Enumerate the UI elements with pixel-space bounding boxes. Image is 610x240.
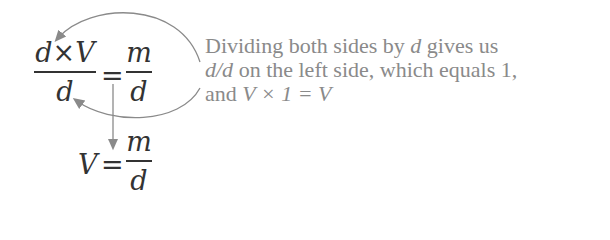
result-variable-v: V bbox=[78, 149, 98, 180]
fraction-bar bbox=[34, 71, 96, 73]
annotation-line-2: d/d on the left side, which equals 1, bbox=[205, 58, 517, 82]
numerator: m bbox=[126, 127, 152, 157]
equals-sign-result: = bbox=[101, 149, 124, 180]
fraction-d-times-v-over-d: d×V d bbox=[34, 38, 96, 107]
fraction-bar bbox=[126, 71, 152, 73]
fraction-bar bbox=[126, 160, 152, 162]
annotation-line-1: Dividing both sides by d gives us bbox=[205, 34, 517, 58]
annotation-line-3: and V × 1 = V bbox=[205, 82, 517, 106]
denominator: d bbox=[126, 77, 152, 107]
fraction-m-over-d-result: m d bbox=[126, 127, 152, 196]
annotation-text: Dividing both sides by d gives us d/d on… bbox=[205, 34, 517, 106]
numerator: d×V bbox=[34, 38, 96, 68]
equals-sign: = bbox=[101, 60, 124, 91]
denominator: d bbox=[34, 77, 96, 107]
fraction-m-over-d: m d bbox=[126, 38, 152, 107]
numerator: m bbox=[126, 38, 152, 68]
denominator: d bbox=[126, 166, 152, 196]
